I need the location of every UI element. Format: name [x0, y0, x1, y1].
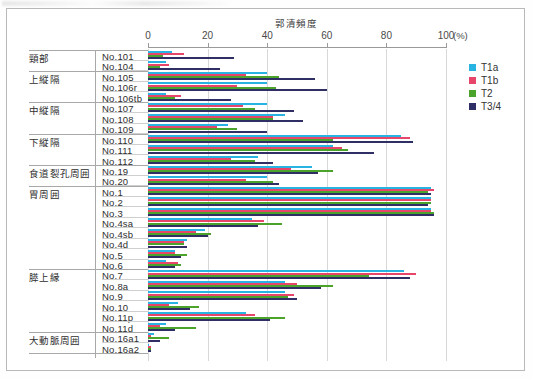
group-separator	[29, 50, 148, 51]
group-separator	[29, 102, 148, 103]
group-separator	[29, 134, 148, 135]
group-label-3: 下縦隔	[29, 135, 60, 149]
legend-swatch-icon	[469, 77, 476, 84]
gridline	[446, 49, 447, 361]
node-row-rule	[102, 321, 148, 322]
x-tick-mark	[446, 43, 447, 48]
x-tick-label-60: 60	[321, 30, 332, 41]
bar-No-110-T3-4	[148, 141, 413, 143]
group-separator	[29, 165, 148, 166]
node-row-rule	[102, 206, 148, 207]
node-row-rule	[102, 196, 148, 197]
x-tick-label-100: 100	[438, 30, 455, 41]
scan-artifact	[2, 1, 232, 6]
node-row-rule	[102, 60, 148, 61]
bar-No-8a-T3-4	[148, 287, 321, 289]
percent-unit-label: (%)	[453, 30, 468, 41]
node-row-rule	[102, 112, 148, 113]
node-row-rule	[102, 217, 148, 218]
node-row-rule	[102, 123, 148, 124]
node-row-rule	[102, 279, 148, 280]
node-row-rule	[102, 227, 148, 228]
node-row-rule	[102, 144, 148, 145]
bar-No-19-T3-4	[148, 172, 318, 174]
bar-No-111-T3-4	[148, 152, 374, 154]
x-tick-label-20: 20	[202, 30, 213, 41]
x-tick-mark	[386, 43, 387, 48]
group-separator	[29, 332, 148, 333]
legend-label: T3/4	[481, 100, 501, 113]
x-tick-label-40: 40	[262, 30, 273, 41]
bar-No-9-T3-4	[148, 298, 297, 300]
legend-label: T1b	[481, 74, 498, 87]
bar-No-16a2-T3-4	[148, 350, 151, 352]
node-row-rule	[102, 248, 148, 249]
node-row-rule	[102, 259, 148, 260]
x-tick-mark	[148, 43, 149, 48]
bar-No-109-T3-4	[148, 131, 267, 133]
group-label-2: 中縦隔	[29, 103, 60, 117]
bar-No-3-T3-4	[148, 214, 434, 216]
group-label-0: 頸部	[29, 51, 50, 65]
group-label-5: 胃周囲	[29, 187, 60, 201]
group-label-6: 膵上縁	[29, 270, 60, 284]
group-separator	[29, 269, 148, 270]
node-row-rule	[102, 91, 148, 92]
node-row-rule	[102, 290, 148, 291]
group-separator-end	[29, 353, 148, 354]
bar-No-106r-T3-4	[148, 89, 327, 91]
bar-No-105-T3-4	[148, 78, 315, 80]
bar-No-11d-T3-4	[148, 329, 175, 331]
node-row-rule	[102, 300, 148, 301]
label-column-divider	[95, 51, 96, 358]
bar-No-4d-T3-4	[148, 246, 187, 248]
bar-No-5-T3-4	[148, 256, 181, 258]
node-row-rule	[102, 311, 148, 312]
x-tick-label-0: 0	[145, 30, 151, 41]
x-tick-mark	[267, 43, 268, 48]
chart-frame: 郭清頻度 (%) 020406080100 頸部No.101No.104上縦隔N…	[6, 8, 525, 371]
bar-No-11p-T3-4	[148, 319, 270, 321]
legend-label: T2	[481, 87, 493, 100]
bar-No-108-T3-4	[148, 120, 303, 122]
group-label-7: 大動脈周囲	[29, 333, 81, 347]
bar-No-10-T3-4	[148, 308, 190, 310]
bar-No-6-T3-4	[148, 266, 175, 268]
bar-No-104-T3-4	[148, 68, 220, 70]
bar-No-4sa-T3-4	[148, 225, 258, 227]
bar-No-4sb-T3-4	[148, 235, 208, 237]
node-row-rule	[102, 238, 148, 239]
bar-No-101-T3-4	[148, 57, 234, 59]
bar-No-16a1-T3-4	[148, 340, 160, 342]
legend-swatch-icon	[469, 64, 476, 71]
chart-figure: 郭清頻度 (%) 020406080100 頸部No.101No.104上縦隔N…	[0, 0, 533, 379]
x-tick-mark	[208, 43, 209, 48]
group-label-1: 上縦隔	[29, 72, 60, 86]
group-separator	[29, 186, 148, 187]
bar-No-2-T3-4	[148, 204, 428, 206]
x-tick-mark	[327, 43, 328, 48]
bar-No-1-T3-4	[148, 193, 431, 195]
bar-No-20-T3-4	[148, 183, 279, 185]
node-row-rule	[102, 175, 148, 176]
legend-swatch-icon	[469, 103, 476, 110]
x-axis-line	[148, 47, 446, 48]
bar-No-106tb-T3-4	[148, 99, 231, 101]
node-row-rule	[102, 154, 148, 155]
axis-title: 郭清頻度	[275, 16, 317, 30]
legend-swatch-icon	[469, 90, 476, 97]
bar-No-7-T3-4	[148, 277, 410, 279]
node-row-rule	[102, 81, 148, 82]
node-row-rule	[102, 342, 148, 343]
group-label-4: 食道裂孔周囲	[29, 166, 91, 180]
bar-No-107-T3-4	[148, 110, 294, 112]
x-tick-label-80: 80	[381, 30, 392, 41]
legend-label: T1a	[481, 61, 498, 74]
bar-No-112-T3-4	[148, 162, 273, 164]
group-separator	[29, 71, 148, 72]
